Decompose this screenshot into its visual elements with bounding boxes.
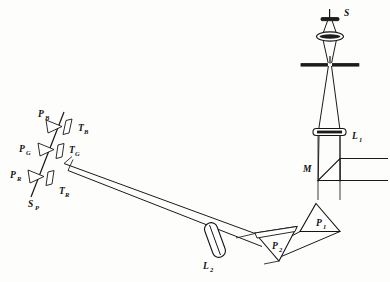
ray-stop-to-l1-right xyxy=(332,66,341,130)
lens-1-assembly: L 1 xyxy=(313,129,362,144)
ray-long-upper-tail xyxy=(64,157,72,164)
lens-1-label: L xyxy=(351,131,358,141)
photocell-blue-label-sub: B xyxy=(44,114,50,121)
green-channel: P G T G xyxy=(19,143,80,159)
phototube-green-label-sub: G xyxy=(75,150,80,157)
prism-2-assembly: P 2 xyxy=(255,227,297,262)
phototube-blue-body xyxy=(63,119,72,135)
mirror-prism-body xyxy=(318,159,340,181)
photocell-red-label: P xyxy=(10,170,16,180)
mirror-label: M xyxy=(302,164,312,174)
aperture-stop xyxy=(301,56,359,66)
aperture-blade-left xyxy=(301,64,328,67)
optical-diagram-figure: L 1 M P 1 P 2 xyxy=(0,0,390,282)
mirror-prism-assembly: M xyxy=(302,135,388,200)
slit-plate-label: S xyxy=(28,199,33,209)
lens-2-label: L xyxy=(202,261,209,271)
prism-1-assembly: P 1 xyxy=(300,204,340,232)
phototube-red-body xyxy=(46,171,54,186)
photocell-green-label: P xyxy=(19,144,25,154)
source-ray-right xyxy=(332,21,336,32)
ray-cond-to-stop-right xyxy=(332,41,337,63)
condenser-lens-core xyxy=(320,34,341,38)
ray-stop-to-l1-left xyxy=(319,66,329,130)
phototube-green-body xyxy=(56,144,64,159)
photocell-red-body xyxy=(28,170,44,183)
lens-1-core xyxy=(317,131,342,134)
ray-long-upper xyxy=(64,164,255,234)
source-filament xyxy=(321,18,339,21)
ray-p2-stub-lower xyxy=(264,261,279,264)
lens-1-label-sub: 1 xyxy=(359,136,362,143)
photocell-green-label-sub: G xyxy=(26,149,31,156)
photocell-red-label-sub: R xyxy=(16,175,22,182)
lens-2-label-sub: 2 xyxy=(209,266,214,273)
photocell-blue-label: P xyxy=(38,109,44,119)
diagram-canvas: L 1 M P 1 P 2 xyxy=(0,0,390,282)
ray-long-lower xyxy=(68,171,262,247)
aperture-blade-right xyxy=(332,64,359,67)
phototube-red-label-sub: R xyxy=(64,191,70,198)
condenser-lens xyxy=(317,32,344,41)
ray-p2-stub-upper xyxy=(236,234,255,239)
prism-1-label: P xyxy=(316,218,322,228)
phototube-blue-label-sub: B xyxy=(83,128,89,135)
prism-1-label-sub: 1 xyxy=(323,223,326,230)
lens-2-assembly: L 2 xyxy=(202,221,227,273)
ray-cond-to-stop-left xyxy=(323,41,328,63)
source-label: S xyxy=(344,8,349,18)
slit-plate-label-sub: P xyxy=(35,204,40,211)
prism-2-label: P xyxy=(272,241,278,251)
light-source-assembly xyxy=(321,9,339,32)
source-ray-left xyxy=(324,21,328,32)
